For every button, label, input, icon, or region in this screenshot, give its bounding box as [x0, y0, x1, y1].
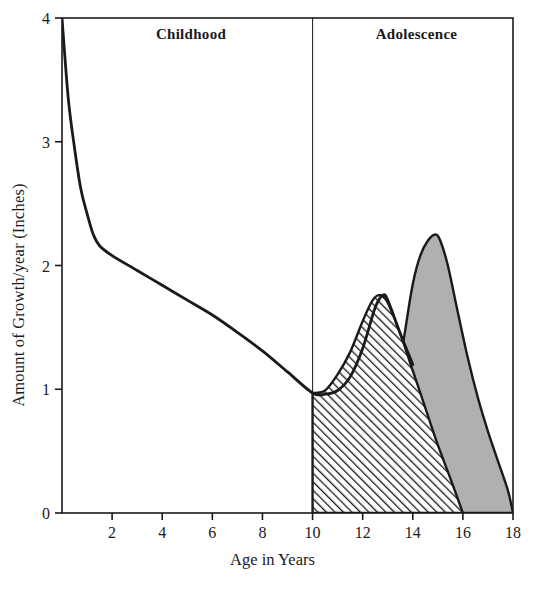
x-tick-label: 18 — [505, 524, 521, 541]
y-tick-label: 1 — [42, 381, 50, 398]
x-tick-label: 4 — [158, 524, 166, 541]
x-axis-title: Age in Years — [0, 550, 537, 570]
y-tick-label: 2 — [42, 258, 50, 275]
growth-rate-chart: Amount of Growth/year (Inches) — [0, 0, 537, 589]
x-axis-ticks: 24681012141618 — [108, 513, 521, 541]
phase-label-childhood: Childhood — [62, 26, 320, 43]
x-tick-label: 16 — [455, 524, 471, 541]
x-tick-label: 6 — [208, 524, 216, 541]
y-tick-label: 0 — [42, 505, 50, 522]
y-tick-label: 4 — [42, 10, 50, 27]
x-tick-label: 14 — [405, 524, 421, 541]
x-tick-label: 10 — [305, 524, 321, 541]
y-tick-label: 3 — [42, 134, 50, 151]
plot-area: 01234 24681012141618 — [0, 0, 537, 589]
x-tick-label: 12 — [355, 524, 371, 541]
x-tick-label: 8 — [258, 524, 266, 541]
x-axis-title-text: Age in Years — [222, 550, 315, 570]
x-tick-label: 2 — [108, 524, 116, 541]
phase-label-adolescence: Adolescence — [320, 26, 513, 43]
y-axis-ticks: 01234 — [42, 10, 62, 522]
